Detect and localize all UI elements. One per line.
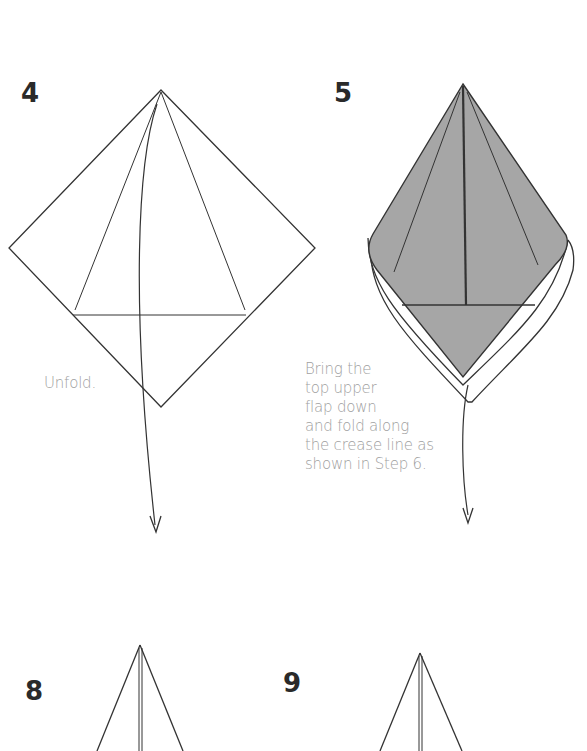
step-9-diagram [380, 653, 462, 751]
step-4-diagram [9, 90, 315, 532]
step-4-square [9, 90, 315, 407]
step-number-8: 8 [25, 678, 43, 704]
step-number-4: 4 [21, 80, 39, 106]
arrow-head-icon [463, 508, 473, 523]
step-5-caption: Bring the top upper flap down and fold a… [305, 360, 434, 474]
arrow-head-icon [150, 516, 161, 532]
step-4-caption: Unfold. [44, 374, 96, 393]
step-number-9: 9 [283, 670, 301, 696]
step-8-diagram [97, 645, 183, 751]
step-number-5: 5 [334, 80, 352, 106]
fold-down-arrow [463, 385, 468, 515]
